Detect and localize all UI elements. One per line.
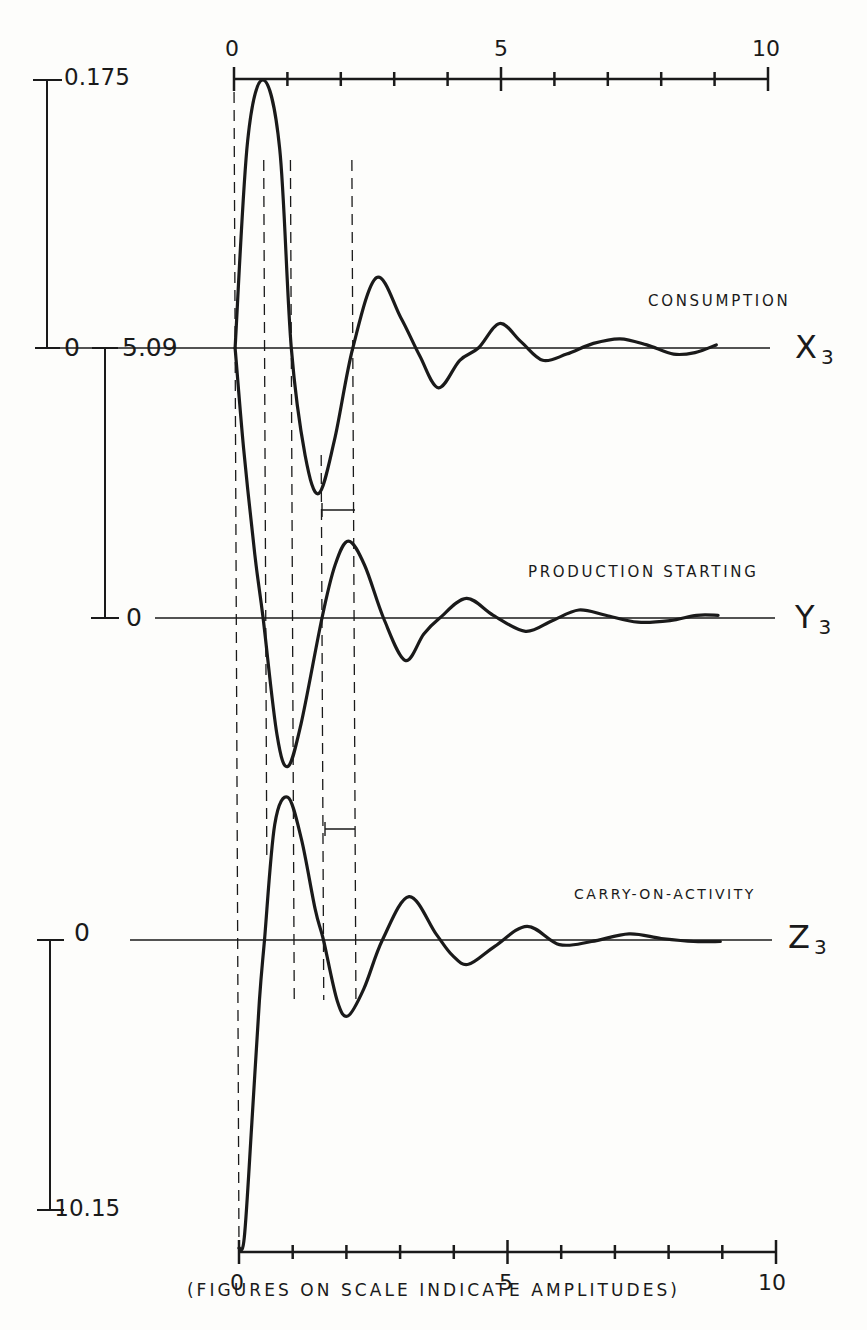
chart-caption: (FIGURES ON SCALE INDICATE AMPLITUDES) bbox=[0, 1280, 867, 1300]
x3-series-label: CONSUMPTION bbox=[648, 292, 790, 310]
top-axis-tick-0: 0 bbox=[225, 36, 239, 61]
x3-symbol: X3 bbox=[795, 328, 834, 369]
amplitude-scale-bars bbox=[33, 80, 119, 1210]
x3-symbol-subscript: 3 bbox=[821, 345, 834, 369]
z3-symbol-letter: Z bbox=[788, 918, 810, 956]
x3-scale-max-label: 0.175 bbox=[64, 64, 130, 90]
y3-scale-max-label: 5.09 bbox=[122, 333, 178, 362]
y3-series-label: PRODUCTION STARTING bbox=[528, 563, 759, 581]
y3-symbol-letter: Y bbox=[795, 598, 815, 636]
x3-symbol-letter: X bbox=[795, 328, 817, 366]
y3-symbol: Y3 bbox=[795, 598, 831, 639]
z3-symbol-subscript: 3 bbox=[814, 935, 827, 959]
chart-canvas bbox=[0, 0, 867, 1330]
bottom-x-axis bbox=[239, 1240, 776, 1264]
z3-carry-on-activity-curve bbox=[239, 797, 720, 1250]
top-x-axis bbox=[234, 67, 768, 91]
x3-consumption-curve bbox=[235, 80, 716, 494]
top-axis-tick-5: 5 bbox=[494, 36, 508, 61]
z3-scale-zero-label: 0 bbox=[74, 918, 90, 947]
x3-scale-zero-label: 0 bbox=[64, 333, 80, 362]
z3-symbol: Z3 bbox=[788, 918, 827, 959]
reference-dashed-lines bbox=[234, 92, 356, 1245]
top-axis-tick-10: 10 bbox=[752, 36, 780, 61]
baselines bbox=[35, 348, 775, 940]
y3-production-starting-curve bbox=[235, 348, 718, 767]
y3-scale-zero-label: 0 bbox=[126, 603, 142, 632]
y3-symbol-subscript: 3 bbox=[819, 615, 832, 639]
z3-series-label: CARRY-ON-ACTIVITY bbox=[574, 886, 756, 902]
z3-scale-min-label: -10.15 bbox=[46, 1195, 120, 1221]
